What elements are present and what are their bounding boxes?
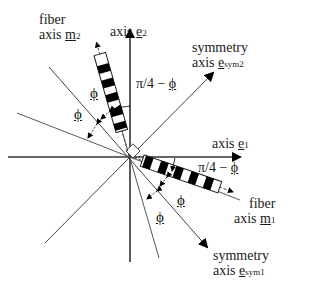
label-phi-top-1: ϕ <box>90 85 98 102</box>
angle-arrow-phi-bot-1 <box>160 177 167 186</box>
label-pi4-minus-phi-top: π/4 − ϕ <box>136 76 176 91</box>
label-axis-e2: axis e2 <box>110 24 147 41</box>
label-symmetry-axis-esym2: symmetry axis esym2 <box>192 40 248 72</box>
angle-arrow-phi-bot-2 <box>147 191 157 199</box>
angle-arrow-phi-top-1 <box>101 111 110 119</box>
angle-arrow-phi-top-2 <box>88 124 97 138</box>
label-fiber-m1: fiber axis m1 <box>234 196 275 228</box>
label-axis-e1: axis e1 <box>212 136 249 153</box>
label-symmetry-axis-esym1: symmetry axis esym1 <box>213 248 269 280</box>
label-fiber-m2: fiber axis m2 <box>39 12 80 44</box>
label-phi-bottom-2: ϕ <box>156 209 164 226</box>
label-pi4-minus-phi-bottom: π/4 − ϕ <box>198 160 238 175</box>
label-phi-bottom-1: ϕ <box>177 192 185 209</box>
label-phi-top-2: ϕ <box>74 106 82 123</box>
